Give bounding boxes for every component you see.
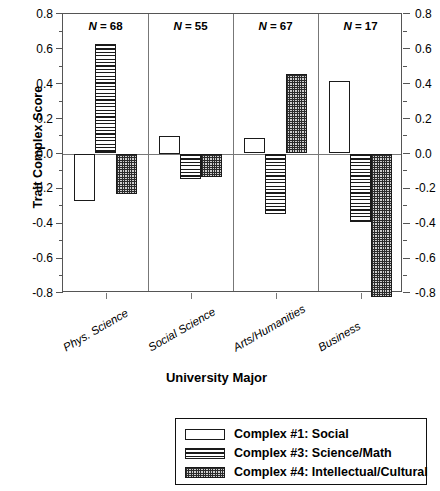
- y-tick-l: [56, 83, 63, 84]
- y-tick-label-right: 0.8: [415, 8, 440, 20]
- y-tick-label-left: 0.2: [13, 113, 53, 125]
- bar: [371, 154, 392, 298]
- y-tick-minor-r: [403, 31, 407, 32]
- y-tick-label-right: -0.8: [415, 287, 440, 299]
- group-size-annotation: N = 17: [318, 20, 403, 32]
- y-tick-label-left: -0.2: [13, 182, 53, 194]
- bar: [286, 74, 307, 153]
- y-tick-minor-r: [403, 135, 407, 136]
- y-tick-label-left: -0.4: [13, 217, 53, 229]
- group-size-annotation: N = 67: [233, 20, 318, 32]
- bar: [95, 44, 116, 154]
- group-size-annotation: N = 55: [148, 20, 233, 32]
- legend-swatch-open-icon: [185, 429, 225, 440]
- y-tick-minor-r: [403, 66, 407, 67]
- y-tick-minor-r: [403, 205, 407, 206]
- y-tick-minor-r: [403, 170, 407, 171]
- y-tick-minor-l: [59, 101, 63, 102]
- y-tick-minor-r: [403, 101, 407, 102]
- y-tick-minor-l: [59, 170, 63, 171]
- y-tick-label-left: 0.8: [13, 8, 53, 20]
- y-tick-minor-l: [59, 275, 63, 276]
- y-tick-label-right: -0.2: [415, 182, 440, 194]
- panel-divider-1: [148, 14, 149, 291]
- legend-label: Complex #4: Intellectual/Cultural: [234, 465, 428, 479]
- panel-divider-3: [318, 14, 319, 291]
- bar: [329, 81, 350, 153]
- y-tick-r: [403, 292, 410, 293]
- bar: [244, 138, 265, 154]
- y-tick-l: [56, 153, 63, 154]
- y-tick-minor-r: [403, 275, 407, 276]
- y-tick-label-right: 0.0: [415, 148, 440, 160]
- bar: [74, 154, 95, 201]
- y-tick-l: [56, 48, 63, 49]
- y-tick-r: [403, 153, 410, 154]
- plot-area: 0.80.80.60.60.40.40.20.20.00.0-0.2-0.2-0…: [62, 13, 402, 292]
- legend-label: Complex #3: Science/Math: [234, 446, 392, 460]
- y-tick-l: [56, 188, 63, 189]
- y-tick-label-right: -0.4: [415, 217, 440, 229]
- bar: [350, 154, 371, 222]
- y-tick-label-left: -0.6: [13, 252, 53, 264]
- legend-label: Complex #1: Social: [234, 427, 349, 441]
- legend-item: Complex #3: Science/Math: [185, 444, 426, 462]
- y-tick-r: [403, 118, 410, 119]
- y-tick-minor-l: [59, 240, 63, 241]
- x-tick: [276, 293, 277, 299]
- bar: [265, 154, 286, 214]
- y-tick-l: [56, 223, 63, 224]
- y-tick-l: [56, 292, 63, 293]
- y-tick-r: [403, 188, 410, 189]
- y-tick-r: [403, 13, 410, 14]
- y-tick-r: [403, 258, 410, 259]
- x-tick: [361, 293, 362, 299]
- x-tick-label: Business: [316, 320, 362, 354]
- chart-legend: Complex #1: Social Complex #3: Science/M…: [175, 418, 427, 485]
- y-tick-r: [403, 83, 410, 84]
- y-tick-label-right: -0.6: [415, 252, 440, 264]
- y-tick-label-left: 0.0: [13, 148, 53, 160]
- x-tick-label: Social Science: [146, 305, 217, 353]
- y-tick-label-right: 0.6: [415, 43, 440, 55]
- y-tick-r: [403, 48, 410, 49]
- y-tick-minor-l: [59, 135, 63, 136]
- x-tick-label: Phys. Science: [61, 307, 130, 354]
- panel-divider-2: [233, 14, 234, 291]
- x-tick: [106, 293, 107, 299]
- y-tick-label-right: 0.4: [415, 78, 440, 90]
- y-tick-l: [56, 13, 63, 14]
- x-tick-label: Arts/Humanities: [231, 302, 307, 353]
- y-tick-l: [56, 258, 63, 259]
- x-tick: [191, 293, 192, 299]
- legend-swatch-checker-icon: [185, 467, 225, 478]
- y-tick-label-left: 0.4: [13, 78, 53, 90]
- bar: [116, 154, 137, 195]
- y-tick-l: [56, 118, 63, 119]
- y-tick-minor-l: [59, 66, 63, 67]
- bar: [201, 154, 222, 178]
- x-axis-title: University Major: [0, 370, 433, 385]
- bar: [180, 154, 201, 179]
- legend-item: Complex #4: Intellectual/Cultural: [185, 463, 426, 481]
- bar: [159, 136, 180, 153]
- y-tick-label-left: 0.6: [13, 43, 53, 55]
- y-tick-r: [403, 223, 410, 224]
- group-size-annotation: N = 68: [63, 20, 148, 32]
- y-tick-label-left: -0.8: [13, 287, 53, 299]
- y-tick-minor-r: [403, 240, 407, 241]
- legend-swatch-hlines-icon: [185, 448, 225, 459]
- legend-item: Complex #1: Social: [185, 425, 426, 443]
- y-tick-minor-l: [59, 205, 63, 206]
- y-tick-label-right: 0.2: [415, 113, 440, 125]
